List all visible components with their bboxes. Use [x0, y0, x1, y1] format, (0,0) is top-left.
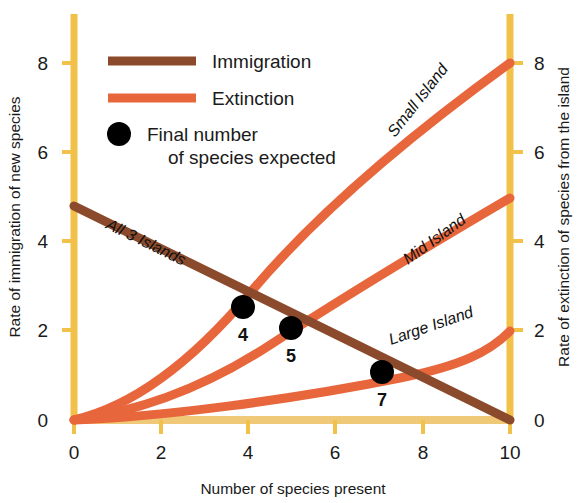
- y-tick-label-2: 2: [37, 320, 48, 341]
- y-tick-label-6: 6: [37, 142, 48, 163]
- equilibrium-marker-label-7: 7: [377, 390, 387, 410]
- y-tick-label-8: 8: [37, 53, 48, 74]
- x-axis-ticks: 0 2 4 6 8 10: [69, 420, 521, 463]
- x-tick-label-6: 6: [330, 442, 341, 463]
- y-tick-label-0: 0: [37, 410, 48, 431]
- legend: Immigration Extinction Final number of s…: [107, 51, 336, 168]
- legend-label-final-number: Final number: [147, 124, 259, 145]
- species-equilibrium-chart: 8 6 4 2 0 8 6 4 2 0 0 2 4: [0, 0, 586, 503]
- y2-tick-label-6: 6: [534, 142, 545, 163]
- equilibrium-marker-label-4: 4: [238, 325, 248, 345]
- legend-item-extinction[interactable]: Extinction: [108, 88, 294, 109]
- y2-tick-label-4: 4: [534, 231, 545, 252]
- x-tick-label-0: 0: [69, 442, 80, 463]
- y-tick-label-4: 4: [37, 231, 48, 252]
- legend-item-final-number[interactable]: Final number of species expected: [107, 122, 336, 168]
- y-axis-left-title: Rate of immigration of new species: [6, 96, 23, 337]
- legend-label-final-number-line2: of species expected: [168, 147, 336, 168]
- y-axis-left-ticks: 8 6 4 2 0: [37, 53, 74, 431]
- equilibrium-marker-7[interactable]: [370, 360, 394, 384]
- legend-label-extinction: Extinction: [212, 88, 294, 109]
- x-axis-title: Number of species present: [200, 480, 386, 497]
- series-annotation-all-3-islands: All 3 Islands: [103, 215, 189, 269]
- y-axis-right-ticks: 8 6 4 2 0: [510, 53, 545, 431]
- x-tick-label-2: 2: [156, 442, 167, 463]
- legend-item-immigration[interactable]: Immigration: [108, 51, 311, 72]
- legend-label-immigration: Immigration: [212, 51, 311, 72]
- legend-swatch-final-number-dot-icon: [107, 122, 131, 146]
- y-axis-right-title: Rate of extinction of species from the i…: [555, 67, 572, 367]
- x-tick-label-4: 4: [243, 442, 254, 463]
- equilibrium-marker-5[interactable]: [279, 316, 303, 340]
- y2-tick-label-2: 2: [534, 320, 545, 341]
- y2-tick-label-8: 8: [534, 53, 545, 74]
- chart-figure: 8 6 4 2 0 8 6 4 2 0 0 2 4: [0, 0, 586, 503]
- series-annotation-mid-island: Mid Island: [400, 210, 470, 267]
- equilibrium-marker-label-5: 5: [286, 346, 296, 366]
- x-tick-label-8: 8: [418, 442, 429, 463]
- y2-tick-label-0: 0: [534, 410, 545, 431]
- equilibrium-marker-4[interactable]: [231, 295, 255, 319]
- x-tick-label-10: 10: [499, 442, 520, 463]
- series-annotation-large-island: Large Island: [386, 303, 476, 348]
